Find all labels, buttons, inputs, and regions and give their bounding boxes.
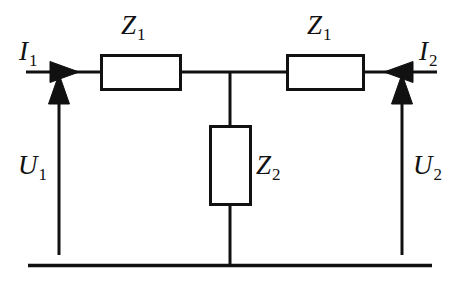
label-z2-symbol: Z — [256, 150, 271, 180]
label-u2: U2 — [413, 152, 441, 179]
label-u1: U1 — [18, 152, 46, 179]
voltage-u2-arrow — [392, 74, 413, 255]
label-i1-symbol: I — [19, 36, 28, 66]
label-i1: I1 — [19, 38, 37, 65]
label-u2-symbol: U — [413, 150, 433, 180]
label-z1-left-subscript: 1 — [137, 25, 146, 44]
label-i2-subscript: 2 — [429, 51, 438, 70]
component-z1-right-box — [288, 56, 364, 90]
circuit-diagram: Z1 Z1 I1 I2 U1 U2 Z2 — [0, 0, 461, 283]
label-u1-subscript: 1 — [39, 165, 48, 184]
current-i2-arrow — [384, 62, 413, 83]
label-z2: Z2 — [256, 152, 280, 179]
label-z1-right: Z1 — [307, 12, 331, 39]
component-z1-left-box — [102, 56, 181, 90]
label-i1-subscript: 1 — [29, 51, 38, 70]
circuit-schematic-canvas — [0, 0, 461, 283]
label-u1-symbol: U — [18, 150, 38, 180]
label-u2-subscript: 2 — [434, 165, 443, 184]
label-z1-right-symbol: Z — [307, 10, 322, 40]
current-i1-arrow — [50, 62, 79, 83]
component-z2-box — [211, 127, 251, 205]
voltage-u1-arrow — [49, 74, 70, 255]
label-i2: I2 — [419, 38, 437, 65]
label-i2-symbol: I — [419, 36, 428, 66]
label-z2-subscript: 2 — [272, 165, 281, 184]
label-z1-right-subscript: 1 — [323, 25, 332, 44]
label-z1-left-symbol: Z — [121, 10, 136, 40]
label-z1-left: Z1 — [121, 12, 145, 39]
